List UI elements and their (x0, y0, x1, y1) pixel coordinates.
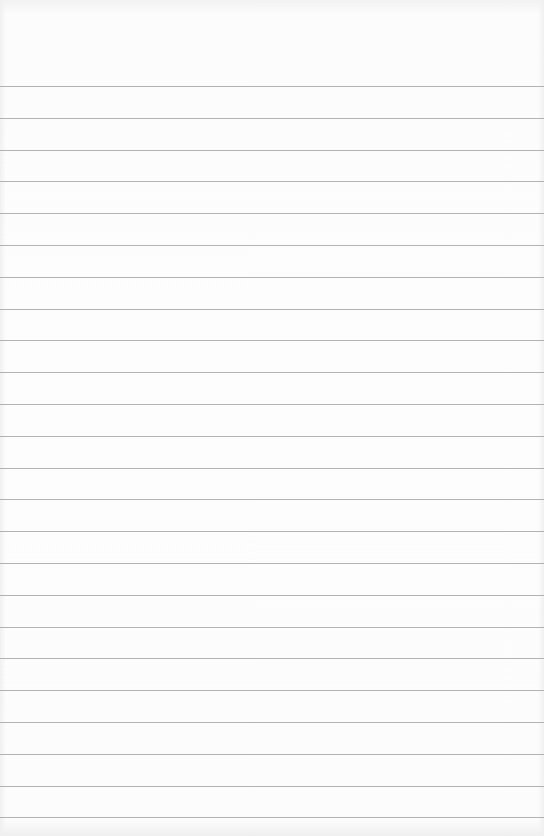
ruled-line (0, 468, 544, 469)
ruled-line (0, 181, 544, 182)
ruled-line (0, 658, 544, 659)
ruled-notepad-page (0, 0, 544, 836)
ruled-line (0, 245, 544, 246)
ruled-line (0, 404, 544, 405)
ruled-line (0, 340, 544, 341)
ruled-line (0, 213, 544, 214)
ruled-line (0, 436, 544, 437)
ruled-line (0, 786, 544, 787)
ruled-line (0, 499, 544, 500)
ruled-line (0, 86, 544, 87)
ruled-line (0, 150, 544, 151)
ruled-line (0, 372, 544, 373)
ruled-line (0, 595, 544, 596)
ruled-line (0, 531, 544, 532)
ruled-line (0, 277, 544, 278)
ruled-line (0, 817, 544, 818)
ruled-line (0, 309, 544, 310)
ruled-line (0, 754, 544, 755)
page-edge-left (0, 0, 6, 836)
ruled-line (0, 118, 544, 119)
ruled-line (0, 627, 544, 628)
ruled-line (0, 563, 544, 564)
ruled-line (0, 722, 544, 723)
ruled-line (0, 690, 544, 691)
page-edge-right (538, 0, 544, 836)
